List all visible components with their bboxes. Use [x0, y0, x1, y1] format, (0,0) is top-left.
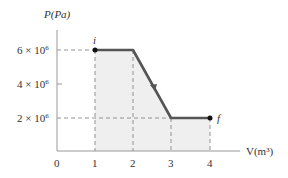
y-tick-label-4: 4 × 106	[17, 78, 49, 90]
x-tick-label-2: 2	[130, 157, 136, 169]
x-tick-label-1: 1	[92, 157, 98, 169]
point-f-label: f	[217, 112, 222, 124]
y-axis-label: P(Pa)	[43, 8, 71, 21]
point-i-label: i	[93, 34, 96, 46]
point-f	[208, 116, 213, 121]
point-i	[93, 48, 98, 53]
x-tick-label-0: 0	[54, 157, 60, 169]
y-tick-label-6: 6 × 106	[17, 44, 49, 56]
y-tick-label-2: 2 × 106	[17, 112, 49, 124]
x-tick-label-3: 3	[168, 157, 174, 169]
x-axis-label: V(m³)	[246, 145, 273, 158]
pv-diagram: P(Pa) V(m³) 6 × 106 4 × 106 2 × 106 0 1 …	[0, 0, 288, 178]
x-tick-label-4: 4	[207, 157, 213, 169]
work-area	[95, 50, 210, 151]
